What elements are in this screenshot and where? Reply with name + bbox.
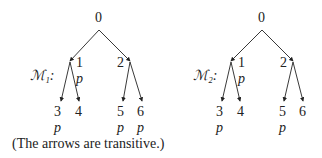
m2-node-6: 6 [299, 105, 306, 119]
m2-node-1: 1 [238, 56, 245, 70]
m2-node-5: 5 [279, 105, 286, 119]
m1-node-1: 1 [76, 56, 83, 70]
model-2-label: ℳ₂: [193, 67, 218, 84]
m2-node-3-prop: p [216, 121, 223, 135]
m1-node-0: 0 [95, 11, 102, 25]
m2-node-2: 2 [280, 56, 287, 70]
m1-node-2: 2 [117, 56, 124, 70]
m1-node-3: 3 [54, 105, 61, 119]
model-1-label: ℳ₁: [30, 67, 55, 84]
m1-node-4: 4 [75, 105, 82, 119]
m1-node-6: 6 [137, 105, 144, 119]
m1-node-5: 5 [117, 105, 124, 119]
m1-node-6-prop: p [137, 121, 144, 135]
m2-node-1-prop: p [238, 72, 245, 86]
caption: (The arrows are transitive.) [12, 136, 164, 152]
m1-node-1-prop: p [76, 72, 83, 86]
m1-node-5-prop: p [117, 121, 124, 135]
m1-node-3-prop: p [54, 121, 61, 135]
m2-node-0: 0 [258, 11, 265, 25]
m2-node-3: 3 [216, 105, 223, 119]
m2-node-5-prop: p [279, 121, 286, 135]
m2-node-4: 4 [237, 105, 244, 119]
